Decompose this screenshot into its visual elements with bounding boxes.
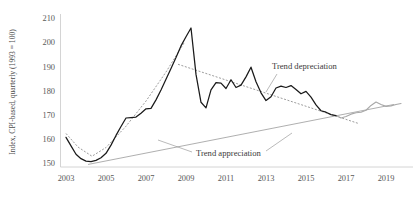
chart-figure: 210 200 190 180 170 160 150 2003 2005 20… — [0, 0, 419, 206]
series-group — [66, 28, 401, 164]
series-main-line — [66, 28, 336, 162]
x-tick-label: 2019 — [378, 174, 395, 183]
y-tick-label: 200 — [42, 38, 55, 47]
axis-group — [61, 14, 414, 167]
y-tick-label: 160 — [42, 135, 55, 144]
y-tick-label: 190 — [42, 63, 55, 72]
x-tick-label: 2003 — [58, 174, 75, 183]
trend-appreciation-leader-left — [158, 140, 192, 152]
trend-appreciation-leader-right — [266, 133, 292, 151]
trend-depreciation-label: Trend depreciation — [272, 61, 338, 71]
x-tick-label: 2007 — [138, 174, 155, 183]
x-tick-label: 2005 — [98, 174, 115, 183]
x-axis-tick-labels: 2003 2005 2007 2009 2011 2013 2015 2017 … — [58, 174, 395, 183]
series-recent-line — [336, 102, 401, 118]
trend-appreciation-dotted-overlay — [66, 43, 184, 156]
x-tick-label: 2011 — [218, 174, 234, 183]
y-tick-label: 180 — [42, 87, 55, 96]
y-tick-label: 150 — [42, 159, 55, 168]
x-tick-label: 2015 — [298, 174, 315, 183]
x-tick-label: 2013 — [258, 174, 275, 183]
annotation-group: Trend depreciation Trend appreciation — [158, 61, 338, 158]
chart-canvas: 210 200 190 180 170 160 150 2003 2005 20… — [0, 0, 419, 206]
y-axis-title: Index, CPI-based, quarterly (1993 = 100) — [8, 29, 17, 155]
y-axis-tick-labels: 210 200 190 180 170 160 150 — [42, 14, 55, 168]
x-tick-label: 2009 — [178, 174, 195, 183]
y-tick-label: 210 — [42, 14, 55, 23]
x-tick-label: 2017 — [338, 174, 355, 183]
trend-appreciation-label: Trend appreciation — [196, 148, 262, 158]
y-tick-label: 170 — [42, 111, 55, 120]
